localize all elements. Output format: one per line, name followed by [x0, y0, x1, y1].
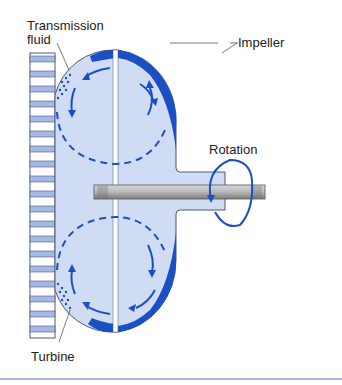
- impeller-label: Impeller: [238, 36, 284, 50]
- rotation-label: Rotation: [209, 143, 257, 157]
- transmission-fluid-label-line1: Transmission: [27, 19, 104, 33]
- output-shaft: [94, 185, 265, 199]
- turbine-label: Turbine: [31, 350, 75, 364]
- transmission-fluid-label: Transmission fluid: [27, 19, 104, 47]
- torque-converter-diagram: [0, 0, 342, 385]
- ring-gear: [30, 53, 55, 338]
- transmission-fluid-label-line2: fluid: [27, 33, 104, 47]
